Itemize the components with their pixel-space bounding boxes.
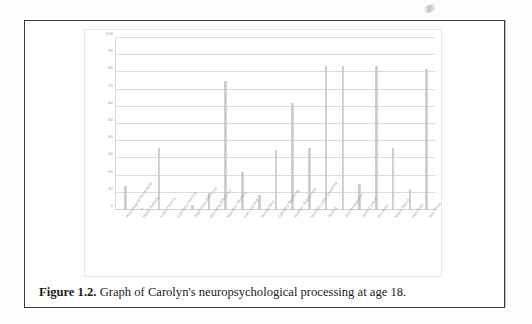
bar-slot xyxy=(368,38,385,210)
x-label-slot: Rey Copy xyxy=(402,212,419,274)
x-label-slot: Category Fluency xyxy=(166,212,183,274)
bar-slot xyxy=(351,38,368,210)
caption-label: Figure 1.2. xyxy=(39,285,96,299)
x-label-slot: Word Context xyxy=(351,212,368,274)
y-axis-tick-label: 70 xyxy=(108,82,113,87)
bar xyxy=(258,195,261,210)
y-axis-tick-label: 60 xyxy=(108,99,113,104)
scan-artifact xyxy=(423,3,437,13)
bar xyxy=(174,209,177,210)
bar-slot xyxy=(217,38,234,210)
bar xyxy=(392,148,395,210)
bar-slot xyxy=(301,38,318,210)
x-label-slot: Recognition xyxy=(250,212,267,274)
x-label-slot: Rapid Naming xyxy=(133,212,150,274)
bar xyxy=(375,66,378,210)
y-axis-tick-label: 20 xyxy=(108,168,113,173)
x-label-slot: Rey Delay xyxy=(418,212,435,274)
x-label-slot: Letter Fluency xyxy=(150,212,167,274)
figure-box: 0102030405060708090100 Phonological Proc… xyxy=(24,20,505,308)
y-axis-tick-label: 100 xyxy=(106,31,113,36)
figure-caption: Figure 1.2. Graph of Carolyn's neuropsyc… xyxy=(39,285,492,299)
bar-slot xyxy=(268,38,285,210)
bar xyxy=(124,186,127,210)
x-label-slot: Sorting xyxy=(318,212,335,274)
bar-slot xyxy=(234,38,251,210)
y-axis-tick-label: 90 xyxy=(108,48,113,53)
x-label-slot: List Learning xyxy=(234,212,251,274)
x-label-slot: Narrative Memory xyxy=(217,212,234,274)
x-axis-labels: Phonological ProcessingRapid NamingLette… xyxy=(116,212,435,274)
x-label-slot: Category Switching xyxy=(267,212,284,274)
bar xyxy=(141,208,144,210)
y-axis-tick-label: 10 xyxy=(108,185,113,190)
bar-slot xyxy=(184,38,201,210)
y-axis-tick-label: 40 xyxy=(108,134,113,139)
x-label-slot: Number Sequencing xyxy=(284,212,301,274)
x-label-slot: Decoding Efficiency xyxy=(200,212,217,274)
bar-slot xyxy=(117,38,134,210)
y-axis-tick-label: 80 xyxy=(108,65,113,70)
x-label-slot: Proverbs xyxy=(368,212,385,274)
plot-wrapper: 0102030405060708090100 xyxy=(115,38,435,210)
caption-text: Graph of Carolyn's neuropsychological pr… xyxy=(96,285,406,299)
bar-slot xyxy=(167,38,184,210)
x-label-slot: Motor Speed xyxy=(385,212,402,274)
x-label-slot: Number-Letter Switching xyxy=(301,212,318,274)
bar-series xyxy=(117,38,435,210)
chart-plot-container: 0102030405060708090100 Phonological Proc… xyxy=(84,29,442,277)
y-axis-tick-label: 50 xyxy=(108,117,113,122)
bar xyxy=(342,66,345,210)
bar-slot xyxy=(418,38,435,210)
bar-slot xyxy=(385,38,402,210)
bar xyxy=(191,205,194,210)
bar-slot xyxy=(201,38,218,210)
x-label-slot: Phonological Processing xyxy=(116,212,133,274)
x-label-slot: Sort Recognition xyxy=(334,212,351,274)
y-axis-tick-label: 30 xyxy=(108,151,113,156)
bar xyxy=(425,69,428,210)
y-axis-tick-label: 0 xyxy=(111,203,113,208)
plot-axes: 0102030405060708090100 xyxy=(115,38,435,210)
bar-slot xyxy=(284,38,301,210)
bar-slot xyxy=(401,38,418,210)
bar-slot xyxy=(150,38,167,210)
x-label-slot: Sight Word Efficiency xyxy=(183,212,200,274)
bar-slot xyxy=(251,38,268,210)
